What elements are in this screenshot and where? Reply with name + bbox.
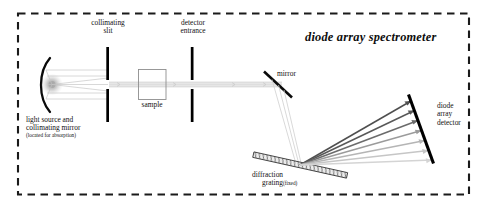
label-diode-array-detector: diode array detector bbox=[437, 102, 461, 127]
label-mirror: mirror bbox=[277, 70, 296, 78]
label-sample: sample bbox=[130, 101, 174, 109]
figure-title: diode array spectrometer bbox=[305, 30, 436, 45]
detector-line3: detector bbox=[437, 118, 461, 127]
label-detector-entrance: detector entrance bbox=[166, 19, 220, 36]
collimating-slit-line2: slit bbox=[103, 26, 112, 35]
collimating-slit-lower bbox=[106, 89, 109, 122]
collimating-slit-upper bbox=[106, 47, 109, 80]
diagram-canvas: diode array spectrometer collimating sli… bbox=[0, 0, 487, 210]
detector-entrance-slit-upper bbox=[191, 47, 194, 80]
diffraction-note: (fixed) bbox=[283, 180, 297, 186]
label-light-source: light source and collimating mirror bbox=[26, 116, 80, 133]
detector-entrance-line2: entrance bbox=[180, 26, 205, 35]
detector-entrance-slit-lower bbox=[191, 89, 194, 122]
light-source-line2: collimating mirror bbox=[26, 123, 80, 132]
dispersed-ray-fan bbox=[300, 101, 432, 165]
diffraction-line2: grating bbox=[262, 178, 283, 187]
label-collimating-slit: collimating slit bbox=[81, 19, 135, 36]
diode-array-detector-bar bbox=[409, 95, 434, 164]
label-light-source-note: (located for absorption) bbox=[26, 133, 76, 139]
label-diffraction-grating: diffraction grating(fixed) bbox=[252, 171, 297, 188]
